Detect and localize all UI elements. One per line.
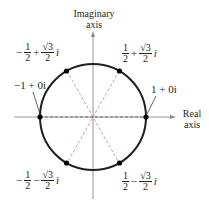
real-axis-label: Real axis — [178, 108, 206, 130]
point-half-plus-root3-half-i — [117, 68, 122, 73]
point-neg-half-minus-root3-half-i — [64, 160, 69, 165]
label-half-minus-root3-half-i: 12 − √32 i — [122, 170, 157, 192]
point-neg1-plus-0i — [37, 114, 42, 119]
leader-1 — [147, 96, 156, 114]
point-neg-half-plus-root3-half-i — [64, 68, 69, 73]
point-1-plus-0i — [143, 114, 148, 119]
label-neg-half-minus-root3-half-i: − 12 − √32 i — [16, 170, 59, 191]
point-half-minus-root3-half-i — [117, 160, 122, 165]
label-neg1-plus-0i: −1 + 0i — [14, 80, 46, 91]
label-neg-half-plus-root3-half-i: − 12 + √32 i — [16, 42, 59, 63]
real-axis-arrow-icon — [170, 115, 176, 119]
label-1-plus-0i: 1 + 0i — [151, 84, 177, 95]
imaginary-axis-arrow-icon — [91, 31, 95, 37]
imaginary-axis-label: Imaginary axis — [70, 8, 118, 30]
leader-neg1 — [33, 92, 40, 114]
label-half-plus-root3-half-i: 12 + √32 i — [122, 42, 157, 64]
